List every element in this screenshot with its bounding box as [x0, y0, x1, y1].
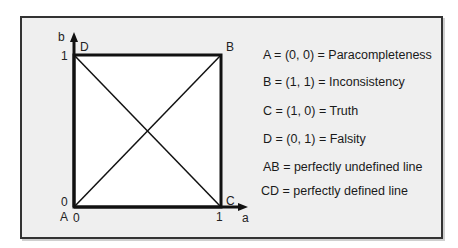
vertex-C: C	[226, 194, 235, 208]
vertex-D: D	[80, 40, 89, 54]
legend-item-B: B = (1, 1) = Inconsistency	[263, 75, 405, 89]
x-axis-arrow-icon	[238, 203, 248, 211]
legend-item-A: A = (0, 0) = Paracompleteness	[263, 48, 432, 62]
x-tick-0: 0	[73, 211, 80, 225]
x-tick-1: 1	[216, 210, 223, 224]
legend-item-C: C = (1, 0) = Truth	[263, 104, 358, 118]
y-tick-0: 0	[61, 195, 68, 209]
legend-item-AB: AB = perfectly undefined line	[263, 160, 422, 174]
vertex-A: A	[60, 210, 68, 224]
legend-item-D: D = (0, 1) = Falsity	[263, 132, 366, 146]
y-tick-1: 1	[61, 49, 68, 63]
lattice-square-diagram: b D B C A 1 0 0 1 a	[0, 0, 458, 248]
x-axis-label: a	[242, 211, 249, 225]
y-axis-label: b	[58, 30, 65, 44]
vertex-B: B	[226, 40, 234, 54]
y-axis-arrow-icon	[70, 32, 78, 42]
legend-item-CD: CD = perfectly defined line	[261, 184, 408, 198]
